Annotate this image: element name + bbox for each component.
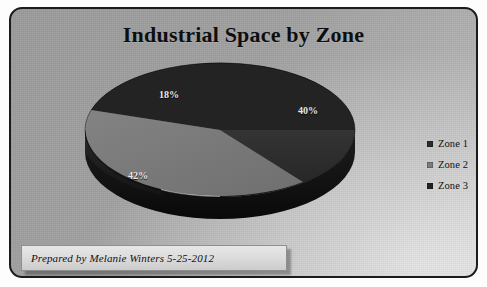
legend-label: Zone 1 xyxy=(438,138,468,149)
legend-label: Zone 3 xyxy=(438,180,468,191)
screenshot-root: Industrial Space by Zone xyxy=(0,0,487,287)
legend-item-zone1[interactable]: Zone 1 xyxy=(427,133,468,154)
pie-label-zone2: 42% xyxy=(128,170,148,181)
legend-label: Zone 2 xyxy=(438,159,468,170)
legend-item-zone2[interactable]: Zone 2 xyxy=(427,154,468,175)
caption-box: Prepared by Melanie Winters 5-25-2012 xyxy=(21,245,287,271)
pie-chart-svg xyxy=(11,9,478,278)
legend-item-zone3[interactable]: Zone 3 xyxy=(427,175,468,196)
pie-label-zone1: 40% xyxy=(298,105,318,116)
legend-swatch-icon xyxy=(427,183,433,189)
legend-swatch-icon xyxy=(427,141,433,147)
legend-swatch-icon xyxy=(427,162,433,168)
pie-label-zone3: 18% xyxy=(159,89,179,100)
chart-title: Industrial Space by Zone xyxy=(11,22,476,48)
chart-frame: Industrial Space by Zone xyxy=(9,7,478,278)
pie-chart xyxy=(11,9,478,278)
caption-text: Prepared by Melanie Winters 5-25-2012 xyxy=(22,252,214,264)
chart-legend: Zone 1 Zone 2 Zone 3 xyxy=(427,133,468,196)
